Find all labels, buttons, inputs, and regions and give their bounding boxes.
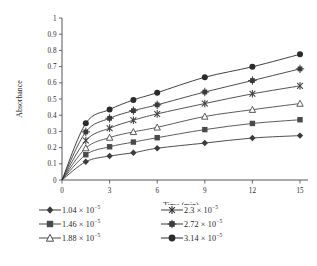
series-3 [62, 82, 303, 180]
data-marker-cross-star [154, 110, 160, 118]
data-marker-filled-square [107, 144, 112, 149]
legend-item: 3.14 × 10−5 [160, 231, 222, 245]
data-marker-cross-star [107, 124, 113, 132]
chart-legend: 1.04 × 10−5 1.46 × 10−5 1.88 × 10−5 [0, 203, 317, 266]
series-line [62, 120, 300, 180]
data-marker-filled-circle [202, 74, 208, 80]
data-marker-open-triangle [83, 145, 89, 151]
data-marker-filled-square [250, 121, 255, 126]
plot-area: 00.10.20.30.40.50.60.70.80.9103691215Tim… [0, 0, 317, 205]
x-tick-label: 12 [249, 187, 257, 195]
data-marker-filled-square [202, 127, 207, 132]
data-marker-square-star [201, 88, 209, 96]
line-chart: 00.10.20.30.40.50.60.70.80.9103691215Tim… [0, 0, 317, 205]
data-marker-filled-circle [83, 120, 89, 126]
legend-marker-filled-square [38, 217, 62, 231]
legend-item: 1.04 × 10−5 [38, 203, 100, 217]
data-marker-square-star [129, 106, 137, 114]
y-tick-label: 1 [53, 15, 57, 23]
series-0 [62, 132, 303, 180]
y-axis-title: Absorbance [15, 80, 24, 118]
series-line [62, 54, 300, 180]
legend-column-right: 2.3 × 10−5 2.72 × 10−5 3.14 [160, 203, 222, 245]
series-1 [62, 117, 303, 180]
data-marker-square-star [248, 76, 256, 84]
data-marker-filled-circle [297, 51, 303, 57]
y-tick-label: 0.5 [48, 96, 57, 104]
figure-container: 00.10.20.30.40.50.60.70.80.9103691215Tim… [0, 0, 317, 266]
data-marker-filled-diamond [106, 153, 112, 159]
data-marker-filled-square [155, 135, 160, 140]
series-line [62, 69, 300, 180]
data-marker-square-star [153, 101, 161, 109]
data-marker-filled-square [131, 139, 136, 144]
data-marker-filled-diamond [202, 140, 208, 146]
y-tick-label: 0 [53, 177, 57, 185]
legend-column-left: 1.04 × 10−5 1.46 × 10−5 1.88 × 10−5 [38, 203, 100, 245]
series-5 [62, 51, 303, 180]
data-marker-filled-circle [154, 90, 160, 96]
y-tick-label: 0.7 [48, 63, 57, 71]
legend-label: 1.88 × 10−5 [62, 234, 100, 243]
data-marker-cross-star [131, 116, 137, 124]
legend-label: 1.46 × 10−5 [62, 220, 100, 229]
y-tick-label: 0.4 [48, 112, 57, 120]
legend-label: 3.14 × 10−5 [184, 234, 222, 243]
series-line [62, 104, 300, 180]
legend-item: 2.3 × 10−5 [160, 203, 222, 217]
y-tick-label: 0.2 [48, 144, 57, 152]
x-tick-label: 15 [296, 187, 304, 195]
data-marker-open-triangle [297, 100, 303, 106]
data-marker-filled-square [297, 117, 302, 122]
data-marker-filled-circle [249, 64, 255, 70]
legend-item: 1.88 × 10−5 [38, 231, 100, 245]
y-tick-label: 0.9 [48, 31, 57, 39]
data-marker-filled-circle [107, 107, 113, 113]
x-tick-label: 9 [203, 187, 207, 195]
legend-label: 2.3 × 10−5 [184, 206, 218, 215]
x-tick-label: 3 [108, 187, 112, 195]
data-marker-cross-star [83, 137, 89, 145]
y-tick-label: 0.6 [48, 79, 57, 87]
legend-marker-filled-circle [160, 231, 184, 245]
legend-label: 2.72 × 10−5 [184, 220, 222, 229]
data-marker-square-star [105, 114, 113, 122]
legend-marker-filled-diamond [38, 203, 62, 217]
data-marker-filled-square [83, 152, 88, 157]
data-marker-filled-circle [130, 97, 136, 103]
legend-label: 1.04 × 10−5 [62, 206, 100, 215]
legend-marker-square-star [160, 217, 184, 231]
series-line [62, 136, 300, 180]
legend-marker-cross-star [160, 203, 184, 217]
y-tick-label: 0.3 [48, 128, 57, 136]
data-marker-filled-diamond [154, 145, 160, 151]
series-line [62, 86, 300, 180]
data-marker-filled-diamond [83, 158, 89, 164]
x-tick-label: 6 [155, 187, 159, 195]
series-2 [62, 100, 303, 180]
data-marker-square-star [296, 65, 304, 73]
legend-item: 2.72 × 10−5 [160, 217, 222, 231]
legend-marker-open-triangle [38, 231, 62, 245]
data-marker-filled-diamond [297, 132, 303, 138]
legend-item: 1.46 × 10−5 [38, 217, 100, 231]
x-tick-label: 0 [60, 187, 64, 195]
y-tick-label: 0.8 [48, 47, 57, 55]
data-marker-filled-diamond [130, 150, 136, 156]
data-marker-filled-diamond [249, 135, 255, 141]
y-tick-label: 0.1 [48, 160, 57, 168]
